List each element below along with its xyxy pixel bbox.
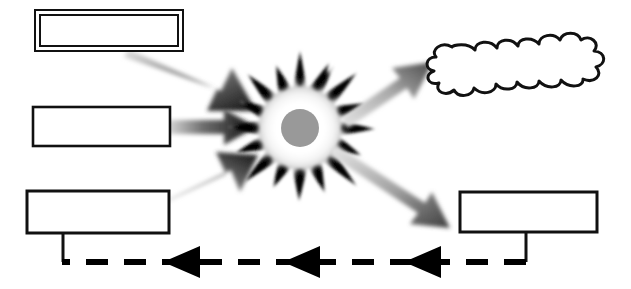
node-input-middle[interactable] — [33, 107, 170, 146]
connector-input-bottom-to-burst — [160, 152, 258, 205]
burst-core — [281, 109, 319, 147]
node-input-top[interactable] — [35, 10, 183, 51]
connector-burst-to-cloud — [341, 62, 433, 128]
diagram-graphics — [0, 0, 631, 289]
feedback-arrowhead-2 — [283, 246, 320, 278]
node-output-box[interactable] — [460, 192, 597, 262]
node-input-bottom[interactable] — [27, 191, 169, 262]
connector-burst-to-output-box — [330, 145, 450, 228]
feedback-arrowhead-1 — [163, 246, 200, 278]
connector-feedback-line — [62, 246, 526, 278]
diagram-canvas — [0, 0, 631, 289]
node-output-cloud[interactable] — [427, 33, 604, 95]
connector-input-top-to-burst — [124, 49, 256, 111]
feedback-arrowhead-3 — [404, 246, 441, 278]
node-center-burst — [228, 50, 376, 202]
